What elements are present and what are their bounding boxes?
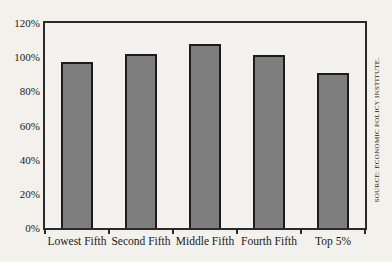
x-category-label: Top 5%: [315, 235, 351, 247]
y-tick-label: 120%: [0, 16, 40, 30]
x-category-label: Fourth Fifth: [241, 235, 297, 247]
x-category-label: Lowest Fifth: [47, 235, 106, 247]
x-axis-tick: [364, 230, 366, 234]
bar-lowest-fifth: [61, 62, 93, 228]
x-category-label: Second Fifth: [111, 235, 170, 247]
source-note: SOURCE: ECONOMIC POLICY INSTITUTE.: [373, 58, 381, 203]
y-tick-label: 40%: [0, 153, 40, 167]
x-axis-tick: [108, 230, 110, 234]
y-tick-label: 60%: [0, 119, 40, 133]
bar-chart-figure: 0%20%40%60%80%100%120% Lowest FifthSecon…: [0, 0, 392, 262]
y-tick-label: 20%: [0, 187, 40, 201]
y-tick-label: 100%: [0, 50, 40, 64]
x-category-label: Middle Fifth: [176, 235, 234, 247]
bar-top-5: [317, 73, 349, 228]
x-axis-tick: [300, 230, 302, 234]
y-tick-label: 80%: [0, 84, 40, 98]
x-axis-tick: [236, 230, 238, 234]
bar-second-fifth: [125, 54, 157, 228]
bar-middle-fifth: [189, 44, 221, 229]
y-tick-label: 0%: [0, 221, 40, 235]
x-axis-tick: [172, 230, 174, 234]
x-axis-tick: [44, 230, 46, 234]
bar-fourth-fifth: [253, 55, 285, 228]
